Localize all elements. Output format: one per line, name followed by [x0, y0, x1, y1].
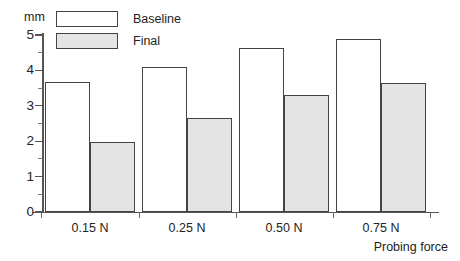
y-tick-label: 4	[16, 63, 34, 77]
y-tick-label: 0	[16, 205, 34, 219]
y-tick-major	[35, 70, 43, 71]
x-tick	[139, 212, 140, 218]
y-tick-major	[35, 176, 43, 177]
y-tick-label: 2	[16, 134, 34, 148]
bar-baseline-0	[45, 82, 90, 212]
legend-label-final: Final	[133, 33, 160, 49]
bar-chart-figure: mm 012345 0.15 N0.25 N0.50 N0.75 N Probi…	[0, 0, 460, 261]
y-tick-minor	[38, 88, 43, 89]
y-tick-minor	[38, 194, 43, 195]
x-tick	[333, 212, 334, 218]
x-tick	[41, 212, 42, 218]
y-tick-major	[35, 34, 43, 35]
x-tick-label-3: 0.75 N	[324, 221, 438, 235]
legend-label-baseline: Baseline	[133, 11, 181, 27]
y-tick-label: 3	[16, 99, 34, 113]
x-tick	[236, 212, 237, 218]
bar-final-3	[381, 83, 426, 212]
x-axis-title: Probing force	[374, 240, 448, 254]
x-tick	[430, 212, 431, 218]
bar-baseline-3	[336, 39, 381, 212]
y-tick-major	[35, 141, 43, 142]
bar-final-1	[187, 118, 232, 212]
y-tick-major	[35, 105, 43, 106]
legend-swatch-baseline	[56, 11, 118, 27]
y-tick-label: 1	[16, 170, 34, 184]
y-tick-minor	[38, 52, 43, 53]
bar-baseline-1	[142, 67, 187, 212]
y-axis-unit-label: mm	[24, 11, 45, 24]
bar-baseline-2	[239, 48, 284, 212]
y-tick-minor	[38, 158, 43, 159]
bar-final-0	[90, 142, 135, 212]
legend-swatch-final	[56, 33, 118, 49]
bar-final-2	[284, 95, 329, 212]
y-tick-label: 5	[16, 28, 34, 42]
y-tick-minor	[38, 123, 43, 124]
